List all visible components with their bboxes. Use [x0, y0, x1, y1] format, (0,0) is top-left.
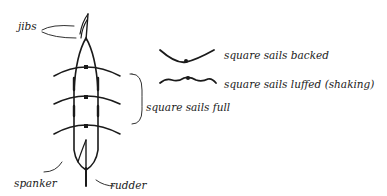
- label-spanker: spanker: [14, 178, 57, 189]
- label-jibs: jibs: [18, 21, 37, 32]
- luffed-symbol: [160, 76, 216, 83]
- label-square-sails-backed: square sails backed: [224, 50, 329, 61]
- label-square-sails-full: square sails full: [146, 102, 230, 113]
- ship-sail-diagram: jibs spanker rudder square sails full sq…: [0, 0, 387, 196]
- square-sails-full-yards: [54, 65, 120, 134]
- label-square-sails-luffed: square sails luffed (shaking): [224, 79, 374, 90]
- spanker-shape: [78, 140, 86, 162]
- jibs-shape: [80, 14, 88, 40]
- backed-symbol: [160, 50, 214, 63]
- label-rudder: rudder: [110, 180, 146, 191]
